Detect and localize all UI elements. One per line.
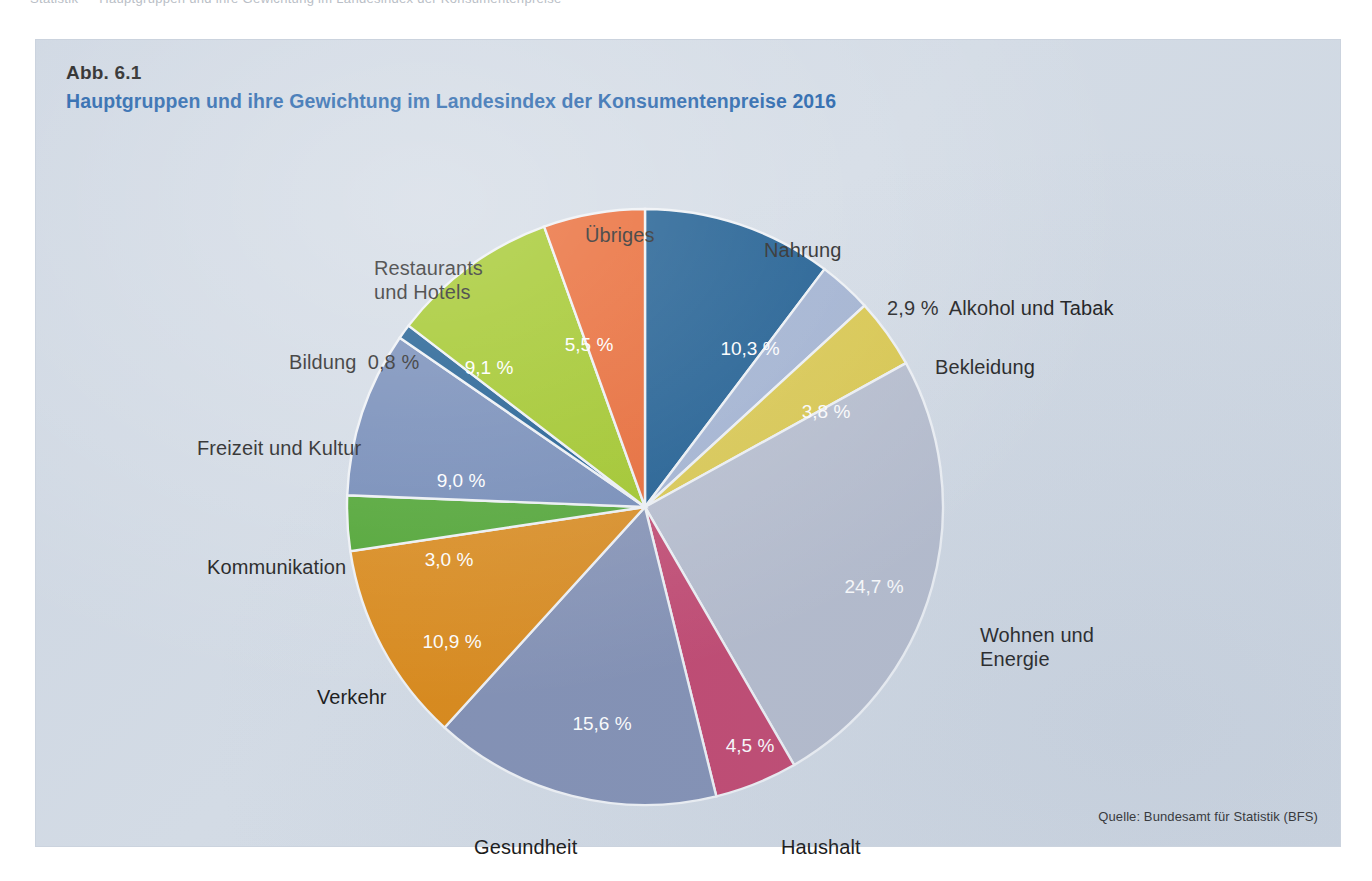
pie-chart: 10,3 %3,8 %24,7 %4,5 %15,6 %10,9 %3,0 %9…	[36, 40, 1340, 846]
pie-label-bildung: Bildung 0,8 %	[289, 350, 419, 374]
figure-panel: Abb. 6.1 Hauptgruppen und ihre Gewichtun…	[36, 40, 1340, 846]
pie-label-nahrung: Nahrung	[764, 238, 841, 262]
pie-label-haushalt: Haushalt	[781, 835, 861, 859]
wohnen-value: 24,7 %	[844, 576, 903, 597]
bekleidung-value: 3,8 %	[802, 401, 851, 422]
ghost-text: Statistik — Hauptgruppen und ihre Gewich…	[30, 0, 562, 6]
pie-label-restaurants-und-hotels: Restaurants und Hotels	[374, 256, 483, 305]
pie-label-verkehr: Verkehr	[317, 685, 387, 709]
pie-label-bekleidung: Bekleidung	[935, 355, 1035, 379]
gesundheit-value: 15,6 %	[572, 713, 631, 734]
kommunikation-value: 3,0 %	[425, 549, 474, 570]
pie-label-wohnen-und-energie: Wohnen und Energie	[980, 623, 1094, 672]
freizeit-value: 9,0 %	[437, 470, 486, 491]
pie-label-gesundheit: Gesundheit	[474, 835, 577, 859]
page-canvas: Statistik — Hauptgruppen und ihre Gewich…	[0, 0, 1372, 881]
pie-label-alkohol-und-tabak: 2,9 % Alkohol und Tabak	[887, 296, 1114, 320]
source-note: Quelle: Bundesamt für Statistik (BFS)	[1098, 809, 1318, 824]
page-top-artifact: Statistik — Hauptgruppen und ihre Gewich…	[0, 0, 1372, 14]
haushalt-value: 4,5 %	[726, 735, 775, 756]
uebriges-value: 5,5 %	[565, 334, 614, 355]
verkehr-value: 10,9 %	[422, 631, 481, 652]
pie-label-kommunikation: Kommunikation	[207, 555, 346, 579]
nahrung-value: 10,3 %	[720, 338, 779, 359]
restaurants-value: 9,1 %	[465, 357, 514, 378]
pie-label-uebriges: Übriges	[585, 223, 655, 247]
pie-label-freizeit-und-kultur: Freizeit und Kultur	[197, 436, 361, 460]
